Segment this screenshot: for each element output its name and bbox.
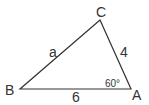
- side-label-6: 6: [72, 89, 80, 105]
- vertex-label-b: B: [5, 82, 14, 98]
- triangle-diagram: C B A a 4 6 60°: [0, 0, 149, 105]
- vertex-label-c: C: [96, 4, 106, 20]
- side-label-4: 4: [120, 44, 128, 60]
- side-label-a: a: [49, 44, 57, 60]
- vertex-label-a: A: [132, 87, 142, 103]
- angle-label-60: 60°: [105, 78, 120, 89]
